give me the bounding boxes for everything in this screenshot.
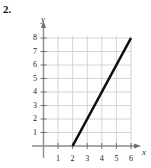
vertical-gridlines (58, 36, 131, 146)
y-tick-label-5: 5 (28, 75, 37, 83)
coordinate-plane-svg (0, 0, 151, 168)
y-axis-label: y (41, 15, 45, 24)
x-axis-arrow-icon (134, 144, 141, 149)
graph-figure: 2. y x 8 7 6 5 4 3 2 1 1 2 3 4 5 6 (0, 0, 151, 168)
y-tick-label-3: 3 (28, 102, 37, 110)
x-tick-label-6: 6 (126, 155, 136, 163)
x-axis-label: x (142, 148, 146, 157)
x-tick-label-4: 4 (97, 155, 107, 163)
x-tick-label-5: 5 (111, 155, 121, 163)
x-tick-label-3: 3 (82, 155, 92, 163)
y-tick-label-8: 8 (28, 34, 37, 42)
x-tick-label-2: 2 (68, 155, 78, 163)
x-tick-label-1: 1 (53, 155, 63, 163)
y-tick-label-6: 6 (28, 61, 37, 69)
y-tick-label-1: 1 (28, 129, 37, 137)
y-tick-label-7: 7 (28, 48, 37, 56)
y-tick-label-2: 2 (28, 115, 37, 123)
y-tick-label-4: 4 (28, 88, 37, 96)
problem-number-label: 2. (3, 4, 11, 15)
